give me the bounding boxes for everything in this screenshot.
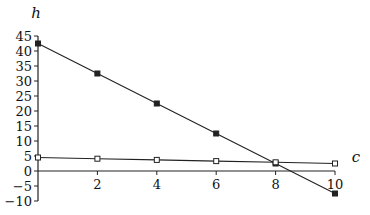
series-line: [38, 158, 335, 164]
x-tick-label: 4: [153, 177, 161, 192]
open-square-marker: [333, 161, 338, 166]
series-group: [36, 41, 338, 196]
y-tick-label: 15: [15, 119, 32, 134]
y-tick-label: 5: [24, 149, 32, 164]
y-tick-label: 35: [15, 59, 32, 74]
y-tick-label: 25: [15, 89, 32, 104]
y-tick-label: 0: [24, 164, 32, 179]
open-square-marker: [36, 155, 41, 160]
open-square-marker: [214, 159, 219, 164]
filled-square-marker: [36, 41, 41, 46]
x-axis-title: c: [352, 148, 361, 166]
open-square-marker: [273, 160, 278, 165]
y-tick-label: 40: [15, 44, 32, 59]
open-square-marker: [154, 157, 159, 162]
x-tick-label: 10: [327, 177, 344, 192]
y-tick-label: −10: [5, 194, 32, 209]
line-chart: −10−5051015202530354045 246810 h c: [0, 0, 370, 215]
filled-square-marker: [333, 191, 338, 196]
y-tick-label: −5: [13, 179, 32, 194]
y-tick-label: 30: [15, 74, 32, 89]
open-square-marker: [95, 156, 100, 161]
y-axis-title: h: [31, 4, 41, 22]
filled-square-marker: [95, 71, 100, 76]
filled-square-marker: [214, 131, 219, 136]
y-tick-label: 10: [15, 134, 32, 149]
y-tick-label: 20: [15, 104, 32, 119]
y-tick-label: 45: [15, 29, 32, 44]
filled-square-marker: [154, 101, 159, 106]
x-tick-label: 8: [271, 177, 279, 192]
x-tick-label: 6: [212, 177, 220, 192]
x-tick-label: 2: [93, 177, 101, 192]
y-axis: −10−5051015202530354045: [5, 29, 38, 209]
